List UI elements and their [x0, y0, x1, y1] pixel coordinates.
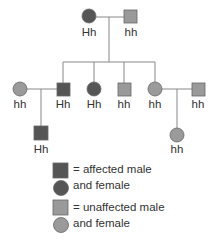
genotype-label: hh	[118, 98, 131, 110]
genotype-label: Hh	[82, 26, 97, 38]
genotype-label: hh	[192, 98, 205, 110]
genotype-label: Hh	[56, 98, 71, 110]
g1-mother-symbol	[82, 9, 96, 23]
genotype-label: hh	[149, 98, 162, 110]
legend-unaffected-text-2: and female	[73, 217, 130, 229]
genotype-label: hh	[14, 98, 27, 110]
pedigree-diagram: Hh hh hh Hh Hh hh hh hh Hh hh = affected…	[0, 0, 217, 243]
genotype-label: Hh	[87, 98, 102, 110]
legend-affected-text-2: and female	[73, 179, 130, 191]
g1-father-symbol	[124, 10, 137, 23]
genotype-label: Hh	[34, 143, 49, 155]
legend-affected-text: = affected male	[73, 163, 152, 175]
legend-unaffected-text: = unaffected male	[73, 201, 165, 213]
genotype-label: hh	[171, 143, 184, 155]
genotype-label: hh	[125, 26, 138, 38]
